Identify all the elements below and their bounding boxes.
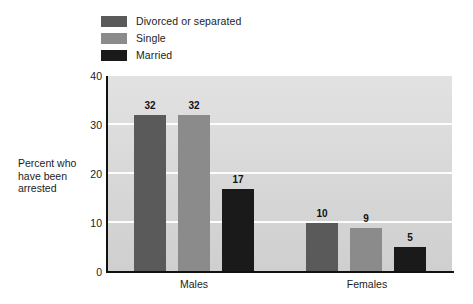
bar-males-divorced-or-separated[interactable]: 32 (134, 115, 166, 272)
y-axis-tick-label: 0 (62, 267, 102, 277)
bar-females-divorced-or-separated[interactable]: 10 (306, 223, 338, 272)
y-axis-tick-label: 20 (62, 169, 102, 179)
legend-item-label: Single (136, 33, 166, 44)
legend-swatch-icon (101, 50, 127, 61)
plot-area: 32 32 17 10 9 5 (108, 76, 452, 272)
bar-value-label: 17 (232, 175, 243, 185)
bar-value-label: 9 (363, 214, 369, 224)
y-axis-line (106, 76, 108, 273)
y-axis-tick-label: 10 (62, 218, 102, 228)
x-axis-label-males: Males (180, 279, 208, 290)
legend-swatch-icon (101, 33, 127, 44)
x-axis-line (106, 271, 454, 273)
legend-item-label: Married (136, 50, 172, 61)
legend-item-married: Married (101, 47, 331, 63)
legend-item-label: Divorced or separated (136, 16, 241, 27)
bar-value-label: 32 (144, 101, 155, 111)
y-axis-ticks: 40 30 20 10 0 (58, 0, 102, 304)
legend-item-divorced-or-separated: Divorced or separated (101, 13, 331, 29)
x-axis-label-females: Females (347, 279, 387, 290)
bar-value-label: 32 (188, 101, 199, 111)
bar-females-single[interactable]: 9 (350, 228, 382, 272)
legend-item-single: Single (101, 30, 331, 46)
y-axis-tick-label: 30 (62, 120, 102, 130)
legend-swatch-icon (101, 16, 127, 27)
chart-legend: Divorced or separated Single Married (101, 13, 331, 64)
bar-males-single[interactable]: 32 (178, 115, 210, 272)
bar-value-label: 10 (316, 209, 327, 219)
bar-value-label: 5 (407, 233, 413, 243)
bar-females-married[interactable]: 5 (394, 247, 426, 272)
y-axis-tick-label: 40 (62, 71, 102, 81)
bar-males-married[interactable]: 17 (222, 189, 254, 272)
